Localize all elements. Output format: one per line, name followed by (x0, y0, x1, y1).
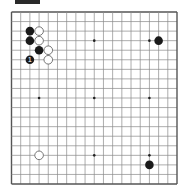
black-stone: 1 (26, 55, 35, 64)
star-point (148, 39, 151, 42)
black-stone (26, 27, 35, 36)
black-stone (35, 46, 44, 55)
star-point (148, 97, 151, 100)
star-point (93, 154, 96, 157)
go-board: 1 (0, 0, 186, 189)
white-stone (35, 27, 44, 36)
black-stone (154, 36, 163, 45)
star-point (93, 97, 96, 100)
white-stone (44, 55, 53, 64)
white-stone (44, 46, 53, 55)
star-point (38, 97, 41, 100)
white-stone (35, 151, 44, 160)
star-point (148, 154, 151, 157)
white-stone (35, 36, 44, 45)
black-stone (145, 161, 154, 170)
star-point (93, 39, 96, 42)
black-stone (26, 36, 35, 45)
move-number-label: 1 (28, 55, 32, 64)
